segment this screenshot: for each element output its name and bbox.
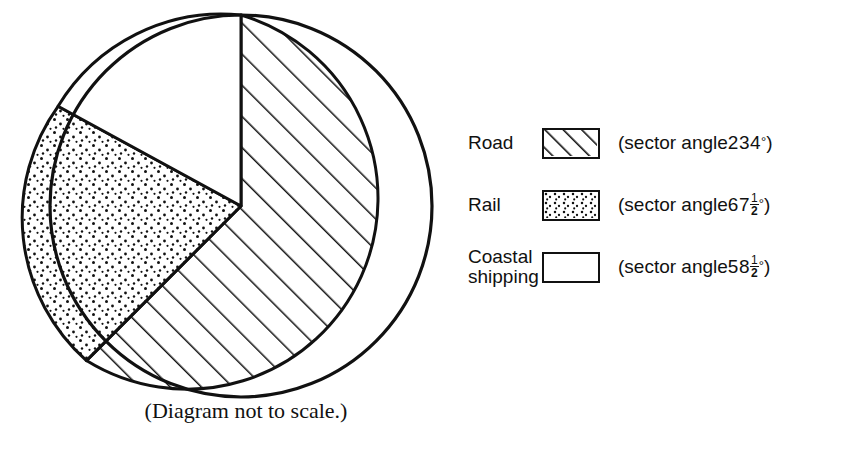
legend-swatch-cell-rail: [542, 190, 618, 221]
legend-label-coastal-shipping: Coastal shipping: [468, 247, 542, 287]
legend-label-road: Road: [468, 133, 542, 153]
fraction-one-half-coastal-shipping: 12: [750, 254, 759, 279]
blank-white-swatch: [542, 252, 600, 283]
fraction-denominator: 2: [750, 266, 759, 279]
legend-row-rail: Rail (sector angle 6712°): [468, 174, 864, 236]
legend-swatch-cell-coastal-shipping: [542, 252, 618, 283]
legend-note-suffix-rail: ): [764, 194, 770, 216]
legend-label-rail: Rail: [468, 195, 542, 215]
pie-chart: [0, 0, 470, 420]
legend-row-road: Road (sector angle 234°): [468, 112, 864, 174]
fraction-denominator: 2: [750, 204, 759, 217]
fraction-numerator: 1: [750, 254, 759, 266]
fraction-one-half-rail: 12: [750, 192, 759, 217]
diagram-page: (Diagram not to scale.) Road (sector ang…: [0, 0, 868, 463]
legend-note-prefix-rail: (sector angle: [618, 194, 728, 216]
legend-note-suffix-road: ): [766, 132, 772, 154]
stipple-dot-swatch: [542, 190, 600, 221]
legend-angle-value-rail: 67: [728, 194, 750, 216]
legend-note-coastal-shipping: (sector angle 5812°): [618, 255, 864, 280]
legend-note-road: (sector angle 234°): [618, 132, 864, 154]
legend-swatch-cell-road: [542, 128, 618, 159]
fraction-numerator: 1: [750, 192, 759, 204]
legend: Road (sector angle 234°) Rail: [468, 112, 864, 298]
legend-note-prefix-coastal-shipping: (sector angle: [618, 256, 728, 278]
diagonal-hatch-swatch: [542, 128, 600, 159]
legend-angle-value-coastal-shipping: 58: [728, 256, 750, 278]
legend-note-suffix-coastal-shipping: ): [764, 256, 770, 278]
legend-note-rail: (sector angle 6712°): [618, 193, 864, 218]
pie-chart-svg: [0, 0, 470, 420]
legend-note-prefix-road: (sector angle: [618, 132, 728, 154]
diagram-caption: (Diagram not to scale.): [56, 398, 436, 424]
legend-angle-value-road: 234: [728, 132, 761, 154]
legend-row-coastal-shipping: Coastal shipping (sector angle 5812°): [468, 236, 864, 298]
